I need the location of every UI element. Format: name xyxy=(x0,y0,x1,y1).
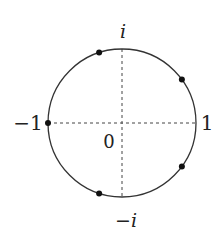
label-neg-1: −1 xyxy=(13,111,42,135)
label-1: 1 xyxy=(201,111,214,135)
label-i: i xyxy=(120,20,126,42)
label-origin: 0 xyxy=(103,131,114,152)
root-point xyxy=(179,77,185,83)
root-point xyxy=(96,50,102,56)
root-point xyxy=(179,163,185,169)
unit-circle-diagram: i −i −1 1 0 xyxy=(0,0,223,238)
root-point xyxy=(45,120,51,126)
label-neg-i: −i xyxy=(115,209,137,231)
root-point xyxy=(96,190,102,196)
